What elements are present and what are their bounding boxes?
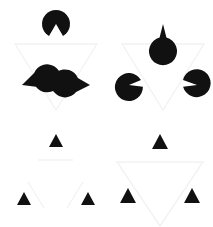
inducer-bottom-left-wedge-icon [120,188,136,203]
inducer-bottom-right-wedge-icon [81,192,95,205]
inducer-bottom-right-wedge-icon [184,188,200,203]
inducer-bottom-right-thin-wedge-disc-icon [183,69,211,97]
quadrant-top-left [0,0,106,113]
inducer-top-wedge-icon [49,134,63,147]
quadrant-top-right [107,0,213,113]
kanizsa-figure-grid [0,0,213,227]
inducer-top-pacman-icon [42,10,70,36]
inducer-bottom-left-wedge-icon [17,192,31,205]
quadrant-bottom-right-canvas [107,114,213,227]
quadrant-bottom-right [107,114,213,227]
illusory-contour-fragment-right [67,182,83,208]
inducer-bottom-left-thin-wedge-disc-icon [115,73,143,101]
quadrant-top-left-canvas [0,0,106,113]
quadrant-top-right-canvas [107,0,213,113]
inducer-top-thin-wedge-disc-icon [149,24,177,65]
quadrant-bottom-left-canvas [0,114,106,227]
quadrant-bottom-left [0,114,106,227]
inducer-bottom-right-pacman-icon [51,69,90,97]
inducer-top-wedge-icon [152,134,168,149]
